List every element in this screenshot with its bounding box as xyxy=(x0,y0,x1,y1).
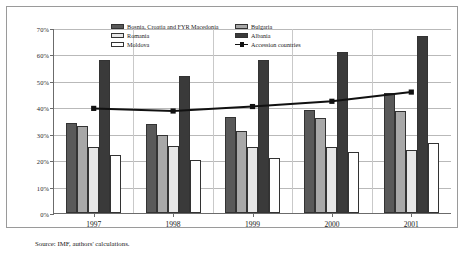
bar xyxy=(179,76,190,213)
x-axis-label: 2000 xyxy=(324,220,339,229)
y-axis-label: 70% xyxy=(37,26,49,33)
y-axis-label: 40% xyxy=(37,105,49,112)
legend-swatch-icon xyxy=(111,24,124,29)
y-axis-label: 50% xyxy=(37,78,49,85)
bar xyxy=(146,124,157,213)
bar xyxy=(110,155,121,213)
bar xyxy=(406,150,417,213)
group-divider xyxy=(292,29,293,213)
bar xyxy=(417,36,428,213)
chart-frame: 0%10%20%30%40%50%60%70% 1997199819992000… xyxy=(6,6,458,228)
legend-item: Bulgaria xyxy=(235,22,333,31)
bar-group-1998: 1998 xyxy=(133,29,212,213)
legend-item: Albania xyxy=(235,31,333,40)
legend-swatch-icon xyxy=(235,24,248,29)
bar xyxy=(337,52,348,213)
x-axis-tick xyxy=(253,213,254,217)
y-axis-label: 0% xyxy=(40,211,49,218)
bar xyxy=(157,135,168,213)
y-axis-label: 30% xyxy=(37,131,49,138)
bar xyxy=(326,147,337,213)
x-axis-tick xyxy=(332,213,333,217)
y-axis-tick xyxy=(50,214,54,215)
y-axis-label: 60% xyxy=(37,52,49,59)
x-axis-tick xyxy=(411,213,412,217)
bar xyxy=(247,147,258,213)
bar-group-1997: 1997 xyxy=(54,29,133,213)
bar xyxy=(66,123,77,213)
x-axis-label: 1999 xyxy=(245,220,260,229)
legend-label: Moldova xyxy=(127,40,149,50)
group-divider xyxy=(213,29,214,213)
y-axis-label: 10% xyxy=(37,184,49,191)
bar xyxy=(168,146,179,213)
bar xyxy=(190,160,201,213)
bar xyxy=(225,117,236,213)
y-axis-label: 20% xyxy=(37,158,49,165)
legend-column-right: BulgariaAlbaniaAccession countries xyxy=(235,22,333,49)
bar xyxy=(304,110,315,213)
legend-item: Romania xyxy=(111,31,235,40)
legend-item: Accession countries xyxy=(235,40,333,49)
legend-swatch-icon xyxy=(111,42,124,47)
x-axis-label: 1997 xyxy=(86,220,101,229)
bar xyxy=(428,143,439,213)
bar-group-1999: 1999 xyxy=(213,29,292,213)
legend-label: Accession countries xyxy=(251,40,301,50)
x-axis-tick xyxy=(173,213,174,217)
bar xyxy=(236,131,247,213)
x-axis-label: 1998 xyxy=(166,220,181,229)
group-divider xyxy=(372,29,373,213)
x-axis-tick xyxy=(94,213,95,217)
legend-swatch-icon xyxy=(111,33,124,38)
legend-item: Moldova xyxy=(111,40,235,49)
group-divider xyxy=(133,29,134,213)
bar-groups: 19971998199920002001 xyxy=(54,29,451,213)
legend-line-marker-icon xyxy=(235,42,248,47)
bar-group-2000: 2000 xyxy=(292,29,371,213)
x-axis-label: 2001 xyxy=(404,220,419,229)
bar xyxy=(315,118,326,213)
bar xyxy=(258,60,269,213)
source-note: Source: IMF, authors' calculations. xyxy=(35,240,130,247)
chart-legend: Bosnia, Croatia and FYR MacedoniaRomania… xyxy=(111,22,333,49)
bar xyxy=(99,60,110,213)
legend-swatch-icon xyxy=(235,33,248,38)
bar xyxy=(77,126,88,213)
legend-item: Bosnia, Croatia and FYR Macedonia xyxy=(111,22,235,31)
plot-area: 0%10%20%30%40%50%60%70% 1997199819992000… xyxy=(53,29,451,214)
bar xyxy=(88,147,99,213)
bar xyxy=(384,93,395,213)
legend-column-left: Bosnia, Croatia and FYR MacedoniaRomania… xyxy=(111,22,235,49)
bar xyxy=(348,152,359,213)
chart-figure: 0%10%20%30%40%50%60%70% 1997199819992000… xyxy=(0,0,466,262)
bar-group-2001: 2001 xyxy=(372,29,451,213)
bar xyxy=(269,158,280,214)
bar xyxy=(395,111,406,213)
